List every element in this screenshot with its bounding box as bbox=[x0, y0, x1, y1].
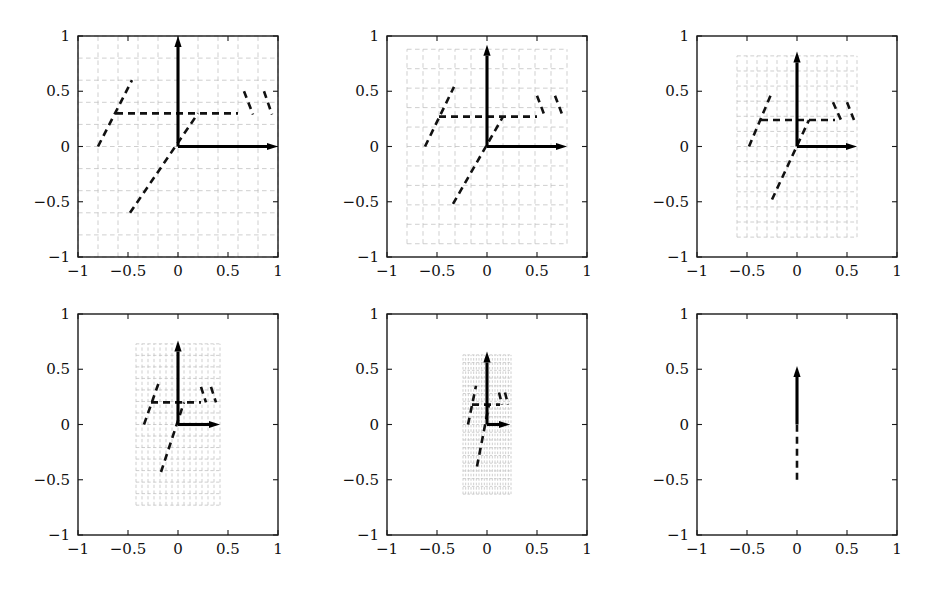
x-tick-label: −1 bbox=[67, 540, 89, 558]
plot-panel-6: −1−0.500.51−1−0.500.51 bbox=[641, 302, 919, 565]
x-tick-label: 0.5 bbox=[525, 540, 549, 558]
y-tick-label: 1 bbox=[679, 305, 689, 323]
eigenvector-arrows-3 bbox=[793, 51, 857, 150]
plot-panel-2: −1−0.500.51−1−0.500.51 bbox=[331, 24, 609, 287]
dashed-right-diagonal-a bbox=[537, 96, 545, 117]
x-tick-label: 0.5 bbox=[525, 262, 549, 280]
y-tick-label: 0 bbox=[60, 416, 70, 434]
y-tick-label: −1 bbox=[667, 526, 689, 544]
y-tick-label: −1 bbox=[48, 526, 70, 544]
x-tick-label: 1 bbox=[582, 540, 592, 558]
plot-panel-1: −1−0.500.51−1−0.500.51 bbox=[22, 24, 300, 287]
x-tick-label: 1 bbox=[273, 540, 283, 558]
dashed-right-diagonal-b bbox=[211, 387, 216, 402]
y-tick-label: 0 bbox=[679, 138, 689, 156]
x-tick-label: −0.5 bbox=[729, 262, 765, 280]
y-tick-label: 1 bbox=[60, 27, 70, 45]
x-tick-label: −0.5 bbox=[110, 262, 146, 280]
plot-panel-5: −1−0.500.51−1−0.500.51 bbox=[331, 302, 609, 565]
x-tick-label: −0.5 bbox=[419, 262, 455, 280]
arrow-head-vertical-eigenvector bbox=[793, 366, 800, 377]
y-tick-label: −0.5 bbox=[343, 471, 379, 489]
y-tick-label: 1 bbox=[369, 305, 379, 323]
x-tick-label: 1 bbox=[892, 540, 902, 558]
x-tick-label: 0.5 bbox=[835, 540, 859, 558]
y-tick-label: 0 bbox=[369, 138, 379, 156]
dashed-right-diagonal-a bbox=[244, 91, 253, 114]
y-tick-label: −1 bbox=[357, 248, 379, 266]
y-tick-label: −0.5 bbox=[34, 193, 70, 211]
y-tick-label: 0.5 bbox=[355, 82, 379, 100]
arrow-head-vertical-eigenvector bbox=[174, 36, 181, 47]
x-tick-label: −0.5 bbox=[729, 540, 765, 558]
y-tick-label: −1 bbox=[48, 248, 70, 266]
y-tick-label: −0.5 bbox=[34, 471, 70, 489]
dashed-lower-diagonal bbox=[453, 117, 503, 204]
dashed-right-diagonal-b bbox=[555, 96, 563, 117]
y-tick-label: 0.5 bbox=[665, 360, 689, 378]
x-tick-label: −0.5 bbox=[110, 540, 146, 558]
dashed-right-diagonal-b bbox=[847, 102, 854, 120]
x-tick-label: 0.5 bbox=[216, 262, 240, 280]
x-tick-label: −1 bbox=[67, 262, 89, 280]
x-tick-label: −0.5 bbox=[419, 540, 455, 558]
y-tick-label: 1 bbox=[679, 27, 689, 45]
eigenvector-arrows-6 bbox=[793, 366, 800, 425]
dashed-lower-diagonal bbox=[772, 120, 809, 200]
x-tick-label: −1 bbox=[376, 262, 398, 280]
x-tick-label: 0 bbox=[482, 262, 492, 280]
x-tick-label: 0 bbox=[173, 262, 183, 280]
y-tick-label: 0.5 bbox=[46, 82, 70, 100]
eigenvector-arrows-4 bbox=[174, 341, 220, 429]
x-tick-label: −1 bbox=[686, 262, 708, 280]
y-tick-label: −0.5 bbox=[653, 471, 689, 489]
arrow-head-horizontal-eigenvector bbox=[267, 143, 278, 150]
x-tick-label: 0 bbox=[173, 540, 183, 558]
dashed-lower-diagonal bbox=[130, 113, 198, 212]
arrow-head-horizontal-eigenvector bbox=[846, 143, 857, 150]
x-tick-label: 0 bbox=[482, 540, 492, 558]
x-tick-label: 0.5 bbox=[216, 540, 240, 558]
dashed-right-diagonal-a bbox=[833, 102, 841, 120]
x-tick-label: 0.5 bbox=[835, 262, 859, 280]
figure-six-panel-grid-contraction: −1−0.500.51−1−0.500.51−1−0.500.51−1−0.50… bbox=[0, 0, 931, 594]
x-tick-label: 1 bbox=[273, 262, 283, 280]
arrow-head-vertical-eigenvector bbox=[174, 341, 181, 352]
x-tick-label: 0 bbox=[792, 540, 802, 558]
y-tick-label: −0.5 bbox=[343, 193, 379, 211]
y-tick-label: 1 bbox=[60, 305, 70, 323]
x-tick-label: 1 bbox=[892, 262, 902, 280]
y-tick-label: 1 bbox=[369, 27, 379, 45]
plot-panel-4: −1−0.500.51−1−0.500.51 bbox=[22, 302, 300, 565]
x-tick-label: 1 bbox=[582, 262, 592, 280]
y-tick-label: 0 bbox=[60, 138, 70, 156]
y-tick-label: 0 bbox=[679, 416, 689, 434]
y-tick-label: 0.5 bbox=[46, 360, 70, 378]
arrow-head-vertical-eigenvector bbox=[483, 352, 490, 363]
arrow-head-horizontal-eigenvector bbox=[556, 143, 567, 150]
x-tick-label: −1 bbox=[376, 540, 398, 558]
y-tick-label: 0 bbox=[369, 416, 379, 434]
arrow-head-vertical-eigenvector bbox=[793, 51, 800, 62]
y-tick-label: −1 bbox=[667, 248, 689, 266]
eigenvector-arrows-1 bbox=[174, 36, 278, 150]
plot-panel-3: −1−0.500.51−1−0.500.51 bbox=[641, 24, 919, 287]
arrow-head-vertical-eigenvector bbox=[483, 45, 490, 56]
arrow-head-horizontal-eigenvector bbox=[209, 421, 220, 428]
dashed-upper-diagonal bbox=[98, 80, 132, 146]
y-tick-label: −1 bbox=[357, 526, 379, 544]
y-tick-label: 0.5 bbox=[355, 360, 379, 378]
y-tick-label: −0.5 bbox=[653, 193, 689, 211]
y-tick-label: 0.5 bbox=[665, 82, 689, 100]
dashed-right-diagonal-b bbox=[264, 91, 272, 114]
x-tick-label: −1 bbox=[686, 540, 708, 558]
x-tick-label: 0 bbox=[792, 262, 802, 280]
